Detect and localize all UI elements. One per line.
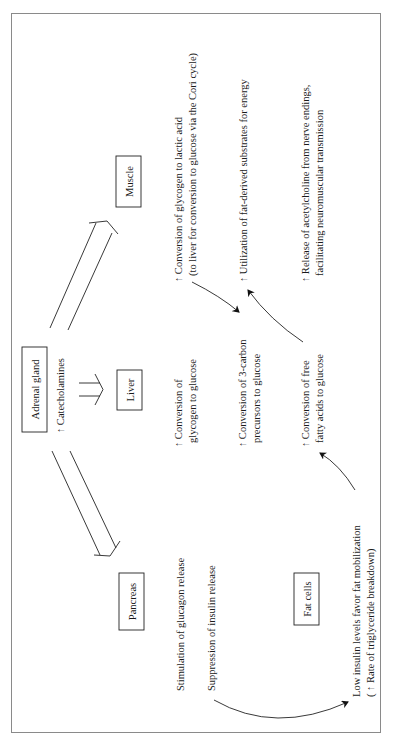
pancreas-effects: Stimulation of glucagon release Suppress… xyxy=(175,557,217,691)
node-liver: Liver xyxy=(117,370,142,410)
liver-threecarbon-line1: ↑ Conversion of 3-carbon xyxy=(237,339,248,447)
fat-effects: Low insulin levels favor fat mobilizatio… xyxy=(351,524,377,697)
liver-fatty-line2: fatty acids to glucose xyxy=(314,354,325,443)
fat-line2: ( ↑ Rate of triglyceride breakdown) xyxy=(365,548,377,697)
muscle-utilization: ↑ Utilization of fat-derived substrates … xyxy=(238,79,249,282)
liver-effects: ↑ Conversion of glycogen to glucose ↑ Co… xyxy=(173,339,325,447)
liver-fatty-line1: ↑ Conversion of free xyxy=(300,360,311,447)
muscle-effects: ↑ Conversion of glycogen to lactic acid … xyxy=(173,52,325,282)
pancreas-label: Pancreas xyxy=(127,583,138,620)
pancreas-insulin: Suppression of insulin release xyxy=(206,565,217,691)
muscle-release-line1: ↑ Release of acetylcholine from nerve en… xyxy=(300,85,311,282)
muscle-glycogen-line2: (to liver for conversion to glucose via … xyxy=(187,52,199,276)
arrow-to-liver xyxy=(79,374,103,405)
arrow-to-muscle xyxy=(50,221,118,330)
diagram-svg: Adrenal gland ↑ Catecholamines Liver Mus… xyxy=(0,0,399,741)
adrenal-gland-label: Adrenal gland xyxy=(30,359,41,420)
muscle-release-line2: facilitating neuromuscular transmission xyxy=(314,109,325,276)
liver-label: Liver xyxy=(125,378,136,401)
liver-threecarbon-line2: precursors to glucose xyxy=(251,353,262,443)
node-adrenal-gland: Adrenal gland xyxy=(22,347,47,432)
fat-cells-label: Fat cells xyxy=(302,581,313,616)
arrow-fat-to-liver xyxy=(320,453,355,490)
arrow-insulin-to-fat xyxy=(214,700,348,718)
pancreas-glucagon: Stimulation of glucagon release xyxy=(175,557,186,691)
liver-glycogen-line1: ↑ Conversion of xyxy=(173,379,184,447)
node-fat-cells: Fat cells xyxy=(294,573,319,625)
node-pancreas: Pancreas xyxy=(119,573,144,630)
liver-glycogen-line2: glycogen to glucose xyxy=(187,359,198,443)
node-muscle: Muscle xyxy=(116,156,141,207)
arrow-cori-cycle xyxy=(192,282,239,312)
muscle-label: Muscle xyxy=(124,166,135,197)
arrow-to-pancreas xyxy=(52,451,120,556)
catecholamines-label: ↑ Catecholamines xyxy=(55,358,66,433)
arrow-fatty-to-utilization xyxy=(248,290,303,342)
diagram-canvas: Adrenal gland ↑ Catecholamines Liver Mus… xyxy=(0,0,399,741)
muscle-glycogen-line1: ↑ Conversion of glycogen to lactic acid xyxy=(173,116,184,282)
fat-line1: Low insulin levels favor fat mobilizatio… xyxy=(351,524,362,697)
